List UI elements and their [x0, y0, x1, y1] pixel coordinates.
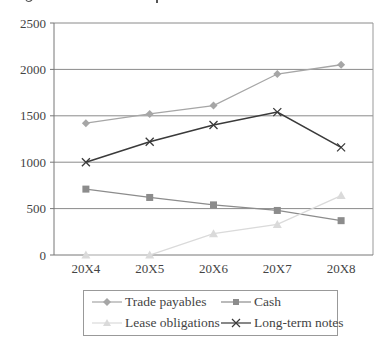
series-long-term-notes — [82, 108, 345, 166]
y-tick-label: 1000 — [20, 155, 46, 170]
x-axis-ticks: 20X420X520X620X720X8 — [71, 261, 355, 276]
y-tick-label: 500 — [27, 201, 47, 216]
triangle-marker-icon — [92, 317, 122, 329]
y-tick-label: 2000 — [20, 62, 46, 77]
legend-label: Long-term notes — [254, 315, 344, 331]
legend-item-long-term-notes: Long-term notes — [221, 315, 344, 331]
legend-label: Cash — [254, 294, 281, 310]
y-tick-label: 0 — [40, 248, 47, 263]
cropped-title-fragment — [26, 0, 158, 3]
gridlines — [54, 23, 373, 209]
legend-item-trade-payables: Trade payables — [92, 294, 207, 310]
legend-label: Lease obligations — [125, 315, 220, 331]
legend: Trade payables Cash Lease obligations Lo… — [83, 290, 338, 336]
legend-label: Trade payables — [125, 294, 207, 310]
x-tick-label: 20X6 — [199, 261, 228, 276]
x-tick-label: 20X4 — [71, 261, 100, 276]
y-tick-label: 2500 — [20, 16, 46, 31]
series-lines — [81, 61, 345, 259]
y-tick-label: 1500 — [20, 108, 46, 123]
x-tick-label: 20X7 — [263, 261, 292, 276]
series-cash — [82, 186, 344, 225]
legend-item-lease-obligations: Lease obligations — [92, 315, 220, 331]
square-marker-icon — [221, 296, 251, 308]
x-tick-label: 20X5 — [135, 261, 164, 276]
y-axis-ticks: 05001000150020002500 — [20, 16, 54, 263]
diamond-marker-icon — [92, 296, 122, 308]
x-marker-icon — [221, 317, 251, 329]
series-lease-obligations — [81, 191, 345, 258]
x-tick-label: 20X8 — [327, 261, 356, 276]
series-trade-payables — [82, 61, 345, 127]
legend-item-cash: Cash — [221, 294, 281, 310]
